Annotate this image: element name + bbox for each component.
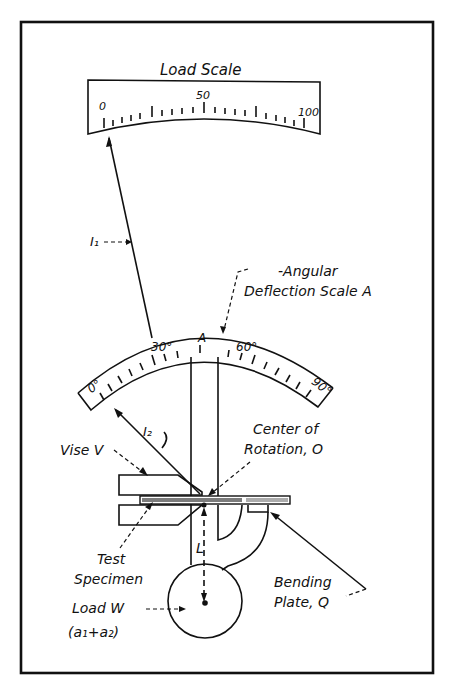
- load-tick-100: 100: [298, 106, 319, 119]
- bending-test-diagram: Load Scale 0 50 100: [0, 0, 456, 692]
- angular-label-line2: Deflection Scale A: [244, 283, 372, 299]
- label-bending-line1: Bending: [274, 574, 332, 590]
- angle-tick-a: A: [197, 331, 206, 345]
- angle-tick-30: 30°: [151, 340, 172, 354]
- length-l: L: [196, 507, 207, 602]
- label-bending-line2: Plate, Q: [274, 594, 329, 610]
- angle-tick-90: 90°: [309, 374, 334, 398]
- label-center-line1: Center of: [253, 421, 320, 437]
- load-tick-50: 50: [196, 89, 210, 102]
- test-specimen-label: Test Specimen: [74, 502, 153, 587]
- center-of-rotation: Center of Rotation, O: [202, 421, 324, 508]
- pointer-i1: I₁: [90, 136, 152, 338]
- angular-scale: 0° 30° A 60° 90°: [78, 331, 334, 410]
- load-scale: Load Scale 0 50 100: [88, 61, 320, 134]
- load-weight: [168, 564, 242, 638]
- angle-tick-0: 0°: [85, 377, 104, 396]
- angular-scale-label: -Angular Deflection Scale A: [220, 263, 372, 334]
- label-load-line1: Load W: [72, 600, 125, 616]
- test-specimen-bar: [140, 496, 290, 504]
- angular-label-line1: -Angular: [278, 263, 339, 279]
- label-i2: I₂: [143, 424, 152, 439]
- label-center-line2: Rotation, O: [244, 441, 323, 457]
- label-length: L: [196, 540, 204, 556]
- label-test-line2: Specimen: [74, 571, 143, 587]
- load-tick-0: 0: [99, 100, 106, 113]
- load-scale-title: Load Scale: [160, 61, 241, 79]
- label-test-line1: Test: [97, 551, 126, 567]
- vise: Vise V: [60, 442, 202, 525]
- bending-plate: Bending Plate, Q: [218, 505, 366, 610]
- label-i1: I₁: [90, 234, 99, 249]
- angle-tick-60: 60°: [236, 340, 257, 354]
- label-vise: Vise V: [60, 442, 105, 458]
- label-load-line2: (a₁+a₂): [68, 624, 119, 640]
